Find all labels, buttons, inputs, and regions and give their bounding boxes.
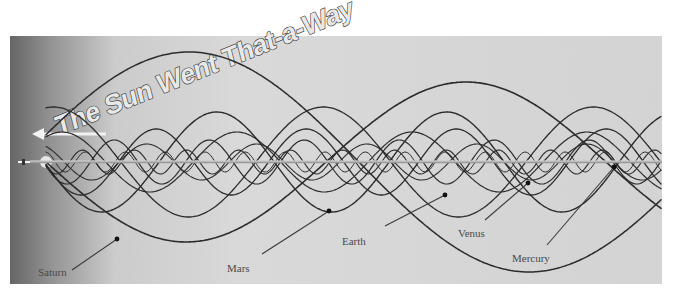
planet-marker-dot <box>443 193 448 198</box>
planet-marker-dot <box>327 209 332 214</box>
planet-marker-dot <box>115 237 120 242</box>
planet-label: Venus <box>458 227 485 239</box>
planet-marker-dot <box>612 165 617 170</box>
planet-label: Earth <box>342 235 366 247</box>
planet-label: Mercury <box>512 252 550 264</box>
planet-label: Saturn <box>38 266 67 278</box>
sun-went-that-a-way-diagram: The Sun Went That-a-Way SaturnMarsEarthV… <box>0 0 681 293</box>
panel-grain <box>10 36 662 284</box>
planet-marker-dot <box>526 181 531 186</box>
planet-label: Mars <box>227 262 250 274</box>
